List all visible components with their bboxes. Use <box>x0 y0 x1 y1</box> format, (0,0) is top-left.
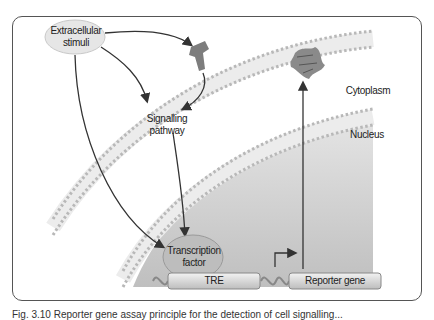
transcription-factor-label: Transcription factor <box>166 245 222 269</box>
cytoplasm-label: Cytoplasm <box>343 85 393 97</box>
figure-frame: Extracellular stimuli Signalling pathway… <box>12 16 422 301</box>
tre-label: TRE <box>199 275 229 287</box>
arrow-stimuli-signalling <box>101 47 147 101</box>
receptor-icon <box>189 41 209 71</box>
nucleus-label: Nucleus <box>347 129 387 141</box>
figure-caption: Fig. 3.10 Reporter gene assay principle … <box>12 309 343 320</box>
arrow-stimuli-receptor <box>105 31 191 45</box>
extracellular-stimuli-label: Extracellular stimuli <box>49 25 103 49</box>
reporter-gene-label: Reporter gene <box>297 275 373 287</box>
signalling-pathway-label: Signalling pathway <box>139 113 195 137</box>
